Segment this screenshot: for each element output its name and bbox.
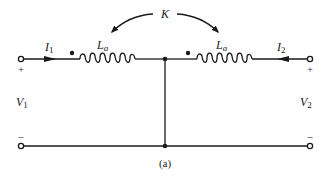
inductor-left-label: La	[96, 38, 109, 53]
junction-top-dot	[163, 57, 168, 62]
terminal-right-bottom	[307, 143, 312, 148]
polarity-dot-left	[70, 51, 74, 55]
inductor-left-coil	[80, 53, 135, 62]
current-arrow-right-icon	[44, 56, 56, 62]
polarity-dot-right	[186, 51, 190, 55]
current-right-label: I2	[276, 40, 286, 55]
inductor-right-coil	[197, 53, 252, 62]
voltage-right-label: V2	[300, 95, 312, 110]
polarity-minus-right: –	[307, 131, 314, 142]
coupling-label: K	[160, 7, 170, 21]
terminal-left-top	[18, 56, 23, 61]
terminal-left-bottom	[18, 143, 23, 148]
coupling-arrow-right	[177, 14, 218, 32]
voltage-left-label: V1	[16, 95, 28, 110]
figure-caption: (a)	[159, 157, 172, 170]
junction-bottom-dot	[163, 144, 168, 149]
inductor-right-label: La	[215, 38, 228, 53]
polarity-minus-left: –	[18, 131, 25, 142]
coupled-inductor-circuit: K La La I1 I2 + + – – V1 V2 (a)	[0, 0, 330, 182]
terminal-right-top	[307, 56, 312, 61]
current-arrow-left-icon	[277, 56, 289, 62]
coupling-arrow-left	[112, 14, 153, 32]
polarity-plus-right: +	[307, 64, 313, 75]
polarity-plus-left: +	[18, 64, 24, 75]
current-left-label: I1	[44, 40, 54, 55]
